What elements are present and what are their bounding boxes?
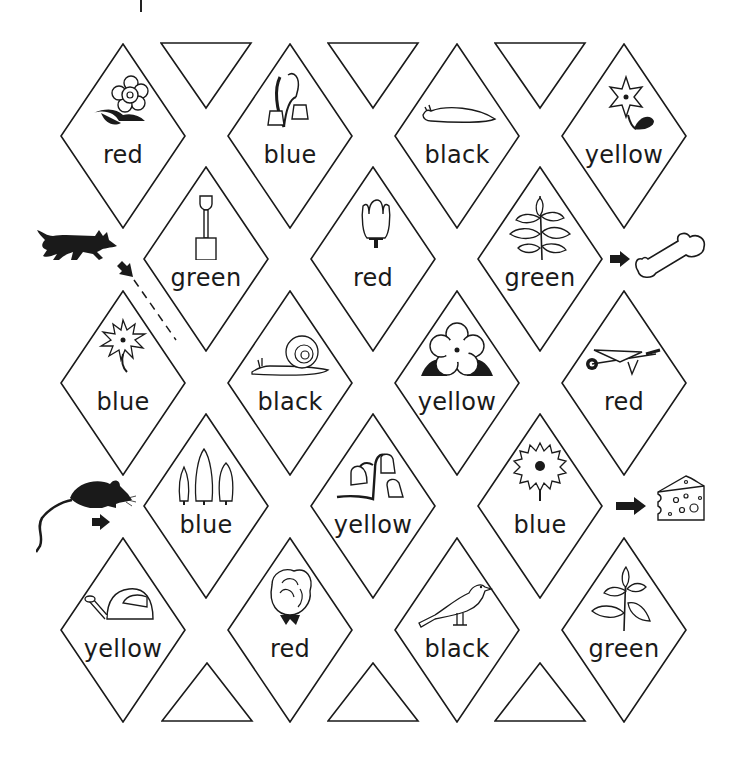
bone-icon[interactable]	[632, 231, 710, 281]
tile-yellow-watering-can[interactable]: yellow	[60, 537, 186, 723]
leafy-plant-icon	[500, 192, 580, 260]
tile-black-bird[interactable]: black	[394, 537, 520, 723]
arrow-right-icon	[610, 251, 630, 267]
arrow-down-right-icon	[117, 261, 135, 279]
tile-label: black	[227, 388, 353, 416]
cheese-icon[interactable]	[656, 474, 708, 524]
tile-red-rose[interactable]: red	[227, 537, 353, 723]
arrow-right-icon	[616, 497, 646, 515]
tile-label: red	[60, 141, 186, 169]
tulip-icon	[333, 192, 413, 260]
bluebells-icon	[250, 69, 330, 137]
watering-can-icon	[83, 563, 163, 631]
dashed-path-line	[130, 278, 180, 342]
tile-label: black	[394, 635, 520, 663]
mouse-silhouette-icon[interactable]	[36, 474, 136, 556]
tile-label: blue	[60, 388, 186, 416]
primrose-icon	[417, 316, 497, 384]
bluebell-stem-icon	[333, 439, 413, 507]
leafy-plant-2-icon	[584, 563, 664, 631]
tile-green-leafy-plant-2[interactable]: green	[561, 537, 687, 723]
tile-label: blue	[143, 511, 269, 539]
snail-icon	[250, 316, 330, 384]
tile-label: black	[394, 141, 520, 169]
rose-icon	[250, 563, 330, 631]
cropped-text-stroke	[140, 0, 142, 12]
bird-icon	[417, 563, 497, 631]
arrow-right-icon	[92, 514, 110, 530]
tile-label: blue	[477, 511, 603, 539]
fir-trees-icon	[166, 439, 246, 507]
slug-icon	[417, 69, 497, 137]
tile-label: yellow	[394, 388, 520, 416]
tile-label: green	[561, 635, 687, 663]
tile-label: yellow	[310, 511, 436, 539]
maze-board: red blue black yellow	[0, 0, 746, 763]
sunflower-icon	[500, 439, 580, 507]
star-flower-icon	[584, 69, 664, 137]
tile-label: red	[561, 388, 687, 416]
flower-with-leaves-icon	[83, 69, 163, 137]
dog-silhouette-icon[interactable]	[37, 226, 117, 266]
tile-label: red	[227, 635, 353, 663]
tile-label: red	[310, 264, 436, 292]
tile-label: green	[477, 264, 603, 292]
tile-label: blue	[227, 141, 353, 169]
tile-label: yellow	[60, 635, 186, 663]
wheelbarrow-icon	[584, 316, 664, 384]
spade-icon	[166, 192, 246, 260]
tile-label: yellow	[561, 141, 687, 169]
